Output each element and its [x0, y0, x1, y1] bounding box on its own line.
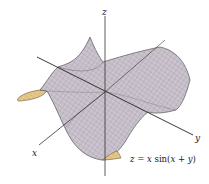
equation-label: z = x sin(x + y)	[129, 154, 196, 164]
surface-main	[40, 37, 190, 160]
y-axis-label: y	[194, 133, 201, 143]
x-axis-label: x	[32, 148, 37, 158]
z-axis-label: z	[101, 7, 107, 17]
surface-underside-left	[17, 90, 47, 101]
surface-plot: z y x z = x sin(x + y)	[0, 0, 209, 184]
